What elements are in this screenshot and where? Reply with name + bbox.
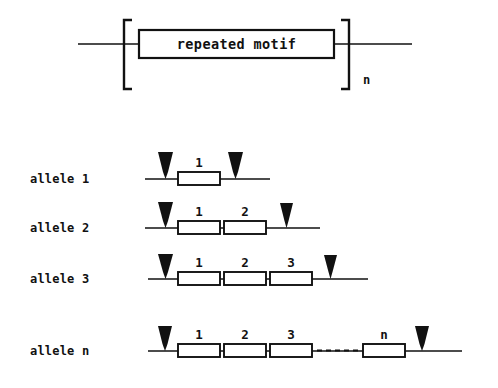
allele-3-repeat-unit-1 (178, 272, 220, 285)
allele-2-unit-2-number: 2 (241, 204, 249, 219)
allele-n-unit-1-number: 1 (195, 327, 203, 342)
tandem-repeat-allele-figure: repeated motif n allele 1 1 allele 2 1 2… (0, 0, 498, 388)
allele-row-1: allele 1 1 (30, 152, 270, 186)
top-repeat-unit-diagram: repeated motif n (78, 20, 412, 89)
allele-2-unit-1-number: 1 (195, 204, 203, 219)
allele-1-unit-1-number: 1 (195, 155, 203, 170)
allele-n-unit-n-number: n (380, 327, 388, 342)
allele-1-arrow-right (228, 152, 243, 179)
allele-n-arrow-left (158, 326, 172, 351)
allele-n-repeat-unit-3 (270, 344, 312, 357)
allele-1-label: allele 1 (30, 172, 89, 186)
allele-n-repeat-unit-1 (178, 344, 220, 357)
allele-n-unit-3-number: 3 (287, 327, 295, 342)
allele-2-label: allele 2 (30, 221, 89, 235)
allele-3-unit-3-number: 3 (287, 255, 295, 270)
allele-row-2: allele 2 1 2 (30, 202, 320, 235)
allele-2-repeat-unit-2 (224, 221, 266, 234)
allele-row-3: allele 3 1 2 3 (30, 254, 368, 286)
allele-3-unit-2-number: 2 (241, 255, 249, 270)
allele-n-arrow-right (415, 326, 429, 351)
repeat-count-subscript: n (363, 73, 370, 87)
allele-2-arrow-right (280, 203, 293, 228)
allele-3-arrow-right (324, 255, 337, 279)
allele-3-unit-1-number: 1 (195, 255, 203, 270)
allele-3-repeat-unit-2 (224, 272, 266, 285)
bracket-right (341, 20, 349, 89)
allele-3-repeat-unit-3 (270, 272, 312, 285)
allele-2-repeat-unit-1 (178, 221, 220, 234)
allele-n-label: allele n (30, 344, 89, 358)
allele-n-repeat-unit-2 (224, 344, 266, 357)
allele-n-unit-2-number: 2 (241, 327, 249, 342)
bracket-left (124, 20, 132, 89)
allele-n-repeat-unit-n (363, 344, 405, 357)
allele-3-arrow-left (158, 254, 173, 279)
allele-row-n: allele n 1 2 3 n (30, 326, 462, 358)
allele-3-label: allele 3 (30, 272, 89, 286)
allele-1-repeat-unit-1 (178, 172, 220, 185)
repeated-motif-label: repeated motif (177, 36, 296, 52)
allele-1-arrow-left (158, 152, 173, 179)
allele-2-arrow-left (158, 202, 173, 228)
